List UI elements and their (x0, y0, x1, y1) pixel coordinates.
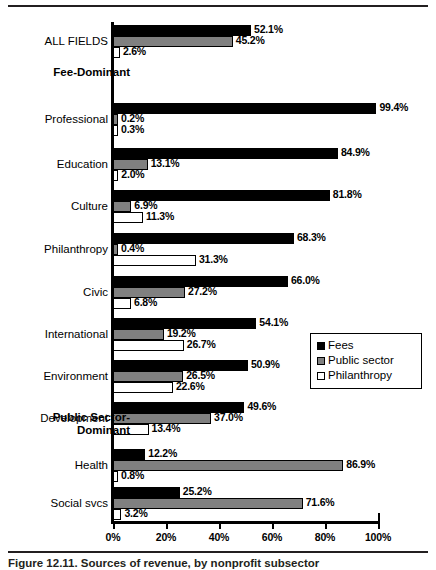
bar-value-culture-philanthropy: 11.3% (146, 211, 174, 222)
bar-value-professional-fees: 99.4% (379, 102, 408, 113)
y-axis-line (111, 22, 114, 523)
x-tick-60pct (272, 524, 274, 529)
bar-health-philanthropy (113, 471, 118, 482)
bottom-divider-rule (8, 551, 428, 553)
bar-professional-philanthropy (113, 125, 118, 136)
bar-all-fields-philanthropy (113, 47, 120, 58)
category-label-environment: Environment (43, 370, 108, 383)
bar-value-environment-philanthropy: 22.6% (176, 381, 205, 392)
bar-value-health-fees: 12.2% (148, 448, 177, 459)
category-label-all-fields: ALL FIELDS (45, 35, 109, 48)
bar-value-civic-philanthropy: 6.8% (134, 297, 157, 308)
legend-item-fees: Fees (317, 338, 416, 353)
bar-value-culture-fees: 81.8% (333, 189, 362, 200)
category-label-international: International (45, 328, 108, 341)
bar-value-philanthropy-fees: 68.3% (297, 232, 326, 243)
x-tick-100pct (378, 524, 380, 529)
bar-value-development-fees: 49.6% (247, 401, 276, 412)
bar-chart-plot-area: ALL FIELDS52.1%45.2%2.6%Professional99.4… (0, 0, 436, 545)
bar-all-fields-fees (113, 25, 251, 36)
category-label-health: Health (75, 459, 108, 472)
bar-value-all-fields-public-sector: 45.2% (236, 35, 265, 46)
category-label-professional: Professional (45, 113, 108, 126)
category-label-civic: Civic (83, 286, 108, 299)
bar-social-svcs-philanthropy (113, 509, 121, 520)
legend-label-public-sector: Public sector (328, 353, 394, 368)
x-tick-label-40pct: 40% (209, 531, 229, 543)
legend-label-fees: Fees (328, 338, 354, 353)
bar-value-international-fees: 54.1% (259, 317, 288, 328)
legend-swatch-fees-icon (317, 342, 325, 350)
bar-value-philanthropy-public-sector: 0.4% (121, 243, 144, 254)
bar-education-fees (113, 148, 338, 159)
x-tick-40pct (219, 524, 221, 529)
category-label-philanthropy: Philanthropy (44, 243, 108, 256)
bar-culture-philanthropy (113, 212, 143, 223)
bar-environment-philanthropy (113, 382, 173, 393)
bar-professional-public-sector (113, 114, 118, 125)
category-label-culture: Culture (71, 200, 108, 213)
category-label-social-svcs: Social svcs (50, 497, 108, 510)
bar-civic-philanthropy (113, 298, 131, 309)
bar-value-all-fields-philanthropy: 2.6% (123, 46, 146, 57)
legend-item-philanthropy: Philanthropy (317, 368, 416, 383)
x-tick-label-60pct: 60% (262, 531, 282, 543)
figure-caption: Figure 12.11. Sources of revenue, by non… (8, 557, 428, 570)
x-tick-label-0pct: 0% (106, 531, 121, 543)
bar-value-environment-fees: 50.9% (251, 359, 280, 370)
bar-value-health-philanthropy: 0.8% (121, 470, 144, 481)
bar-health-fees (113, 449, 145, 460)
bar-social-svcs-fees (113, 487, 180, 498)
bar-value-social-svcs-public-sector: 71.6% (306, 497, 335, 508)
bar-professional-fees (113, 103, 376, 114)
bar-value-civic-public-sector: 27.2% (188, 286, 217, 297)
bar-environment-fees (113, 360, 248, 371)
legend-swatch-public-sector-icon (317, 357, 325, 365)
x-tick-label-80pct: 80% (315, 531, 335, 543)
bar-value-development-philanthropy: 13.4% (152, 423, 181, 434)
x-axis-end-cap (378, 513, 380, 524)
group-header-public-sector-dominant: Public Sector-Dominant (22, 411, 130, 437)
bar-value-health-public-sector: 86.9% (346, 459, 375, 470)
bar-education-philanthropy (113, 170, 118, 181)
bar-value-international-philanthropy: 26.7% (187, 339, 216, 350)
bar-philanthropy-philanthropy (113, 255, 196, 266)
x-tick-label-20pct: 20% (156, 531, 176, 543)
x-axis-line (111, 521, 380, 524)
bar-health-public-sector (113, 460, 343, 471)
group-header-fee-dominant: Fee-Dominant (22, 66, 130, 79)
bar-international-public-sector (113, 329, 164, 340)
x-tick-0pct (113, 524, 115, 529)
bar-value-philanthropy-philanthropy: 31.3% (199, 254, 228, 265)
bar-value-social-svcs-philanthropy: 3.2% (124, 508, 147, 519)
x-tick-80pct (325, 524, 327, 529)
bar-culture-public-sector (113, 201, 131, 212)
chart-legend: Fees Public sector Philanthropy (310, 333, 422, 389)
bar-philanthropy-public-sector (113, 244, 118, 255)
x-tick-label-100pct: 100% (365, 531, 391, 543)
bar-environment-public-sector (113, 371, 183, 382)
bar-value-education-public-sector: 13.1% (151, 158, 180, 169)
legend-swatch-philanthropy-icon (317, 372, 325, 380)
bar-value-education-philanthropy: 2.0% (121, 169, 144, 180)
bar-value-professional-philanthropy: 0.3% (121, 124, 144, 135)
legend-label-philanthropy: Philanthropy (328, 368, 392, 383)
bar-value-development-public-sector: 37.0% (214, 412, 243, 423)
bar-value-education-fees: 84.9% (341, 147, 370, 158)
legend-item-public-sector: Public sector (317, 353, 416, 368)
bar-value-civic-fees: 66.0% (291, 275, 320, 286)
x-tick-20pct (166, 524, 168, 529)
bar-value-social-svcs-fees: 25.2% (183, 486, 212, 497)
bar-international-philanthropy (113, 340, 184, 351)
category-label-education: Education (57, 158, 108, 171)
